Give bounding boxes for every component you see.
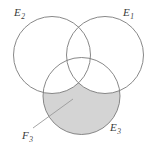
label-e2-subscript: 2 [21,12,25,21]
shaded-region-e3-only [0,0,154,150]
venn-diagram-figure: E2 E1 E3 F3 [0,0,154,150]
label-e2-base: E [14,6,21,18]
label-f3-subscript: 3 [29,135,33,144]
venn-diagram-svg [0,0,154,150]
label-e3: E3 [110,122,121,133]
label-f3: F3 [22,130,33,141]
shaded-region-group [0,0,154,150]
label-f3-base: F [22,129,29,141]
label-e2: E2 [14,7,25,18]
label-e1-base: E [123,6,130,18]
label-e3-subscript: 3 [117,127,121,136]
label-e1-subscript: 1 [130,12,134,21]
label-e1: E1 [123,7,134,18]
label-e3-base: E [110,121,117,133]
